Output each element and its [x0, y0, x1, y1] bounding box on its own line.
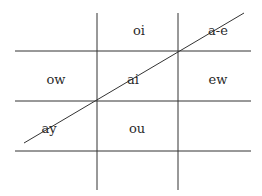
cell-oi: oi [133, 23, 145, 38]
cell-ou: ou [129, 121, 145, 136]
cell-a-e: a-e [208, 23, 228, 38]
cell-ay: ay [41, 121, 57, 136]
cell-ew: ew [209, 72, 228, 87]
cell-ow: ow [47, 72, 66, 87]
cell-ai: ai [127, 72, 139, 87]
tic-tac-toe-grid: oi a-e ow ai ew ay ou [0, 0, 262, 196]
